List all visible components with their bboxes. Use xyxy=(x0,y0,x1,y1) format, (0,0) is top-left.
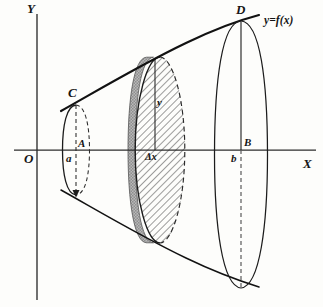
right-disk-right-arc xyxy=(241,21,268,288)
figure-canvas xyxy=(0,0,323,307)
solid-of-revolution-figure: Y X O C D A B a b y Δx y=f(x) xyxy=(0,0,323,307)
upper-limit-label: b xyxy=(231,153,237,164)
point-a-label: A xyxy=(78,138,85,149)
x-axis-label: X xyxy=(303,157,312,170)
right-disk-left-arc xyxy=(215,21,242,288)
point-c-label: C xyxy=(68,86,77,99)
y-axis-label: Y xyxy=(27,2,35,15)
point-d-label: D xyxy=(236,3,245,16)
point-b-label: B xyxy=(244,137,251,148)
origin-label: O xyxy=(24,152,33,165)
thickness-label: Δx xyxy=(145,152,157,163)
lower-limit-label: a xyxy=(66,153,72,164)
curve-equation-label: y=f(x) xyxy=(264,15,294,27)
radius-label: y xyxy=(157,97,162,108)
right-end-disk xyxy=(215,21,268,288)
